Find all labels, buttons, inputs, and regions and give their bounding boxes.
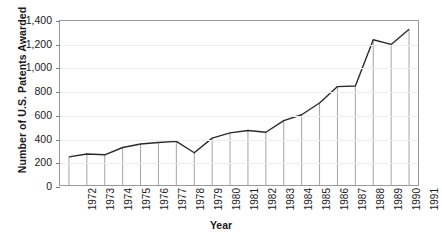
gridline <box>60 45 418 46</box>
y-tick-label: 1,000 <box>14 62 52 72</box>
y-tick-label: 800 <box>14 86 52 96</box>
y-tick-label: 400 <box>14 134 52 144</box>
y-tick-mark <box>56 140 60 141</box>
gridline <box>60 92 418 93</box>
y-tick-label: 600 <box>14 110 52 120</box>
y-tick-label: 200 <box>14 157 52 167</box>
x-axis-title: Year <box>0 219 442 231</box>
y-tick-mark <box>56 45 60 46</box>
y-tick-label: 0 <box>14 181 52 191</box>
patents-line-chart: Number of U.S. Patents Awarded 020040060… <box>0 0 442 237</box>
y-tick-label: 1,200 <box>14 39 52 49</box>
y-tick-mark <box>56 163 60 164</box>
gridline <box>60 140 418 141</box>
y-tick-mark <box>56 116 60 117</box>
gridline <box>60 116 418 117</box>
y-tick-mark <box>56 68 60 69</box>
gridline <box>60 163 418 164</box>
gridline <box>60 68 418 69</box>
y-tick-mark <box>56 21 60 22</box>
y-tick-mark <box>56 92 60 93</box>
y-tick-label: 1,400 <box>14 15 52 25</box>
y-axis-tick-labels: 02004006008001,0001,2001,400 <box>14 0 52 237</box>
plot-area <box>59 20 419 186</box>
